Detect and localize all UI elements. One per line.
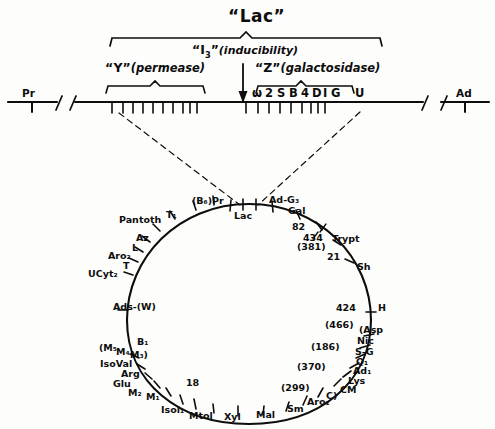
- marker-l: L: [132, 243, 138, 253]
- i-gene-symbol: “I: [192, 42, 205, 57]
- marker-21: 21: [327, 252, 340, 262]
- marker-b1: B₁: [137, 337, 148, 347]
- z-gene-label: “Z”(galactosidase): [255, 62, 380, 75]
- marker-isoval: IsoVal: [100, 359, 132, 369]
- z-marker-d: D: [312, 88, 323, 100]
- marker-82: 82: [292, 222, 305, 232]
- z-marker-omega: ω: [252, 88, 263, 100]
- marker-gal: Gal: [288, 206, 305, 216]
- marker-m2: M₂: [128, 388, 142, 398]
- marker-h: H: [378, 303, 386, 313]
- marker-186: (186): [311, 342, 340, 352]
- marker-aro2: Aro₂: [108, 251, 131, 261]
- y-gene-function: (permease): [131, 61, 205, 75]
- y-bracket: [106, 81, 205, 93]
- marker-466: (466): [325, 320, 354, 330]
- marker-pantoth: Pantoth: [119, 215, 161, 225]
- marker-18: 18: [186, 378, 199, 388]
- y-region-ticks: [112, 103, 197, 113]
- marker-m4: M₄: [116, 347, 130, 357]
- marker-ads-w: Ads-(W): [113, 302, 156, 312]
- inducibility-label: “I3”(inducibility): [192, 44, 298, 59]
- y-gene-label: “Y”(permease): [105, 62, 205, 75]
- z-marker-i: I: [323, 88, 328, 100]
- marker-trypt: Trypt: [332, 234, 360, 244]
- z-marker-4: 4: [301, 88, 310, 100]
- marker-ucyt2: UCyt₂: [88, 269, 118, 279]
- marker-t: T: [123, 261, 129, 271]
- marker-424: 424: [336, 303, 356, 313]
- marker-arg: Arg: [121, 369, 140, 379]
- lac-title: “Lac”: [228, 8, 285, 25]
- marker-b6-pr: (B₆)Pr: [192, 196, 224, 206]
- z-marker-2: 2: [265, 88, 274, 100]
- marker-az: Az: [136, 233, 149, 243]
- marker-t1: T₁: [166, 210, 177, 220]
- left-end-label: Pr: [22, 88, 35, 99]
- z-gene-function: (galactosidase): [281, 61, 381, 75]
- marker-aro1: Aro₁: [307, 397, 330, 407]
- marker-lac: Lac: [234, 211, 252, 221]
- z-marker-g: G: [331, 88, 342, 100]
- marker-asp: (Asp: [359, 325, 383, 335]
- marker-nic: Nic: [357, 336, 374, 346]
- marker-370: (370): [297, 362, 326, 372]
- marker-381: (381): [297, 242, 326, 252]
- right-end-label: Ad: [456, 88, 472, 99]
- z-gene-symbol: “Z”: [255, 60, 281, 75]
- marker-m5: (M₅: [99, 343, 117, 353]
- marker-ad-g3: Ad-G₃: [269, 195, 299, 205]
- marker-m1: M₁: [146, 392, 160, 402]
- marker-mtol: Mtol: [189, 411, 213, 421]
- marker-m3: M₃): [130, 350, 148, 360]
- i-gene-function: (inducibility): [219, 44, 298, 57]
- end-tick-marks: [32, 102, 465, 112]
- marker-mal: Mal: [256, 410, 275, 420]
- z-region-ticks: [246, 103, 325, 113]
- marker-sm: Sm: [287, 404, 304, 414]
- z-marker-u: U: [355, 88, 366, 100]
- marker-isol1: Isol₁: [161, 405, 184, 415]
- marker-xyl: Xyl: [224, 412, 241, 422]
- z-marker-s: S: [277, 88, 286, 100]
- y-gene-symbol: “Y”: [105, 60, 131, 75]
- marker-299: (299): [281, 383, 310, 393]
- genetic-map-figure: “Lac” “Y”(permease) “Z”(galactosidase) “…: [0, 0, 495, 429]
- marker-glu: Glu: [113, 379, 131, 389]
- projection-lines: [119, 112, 360, 205]
- i-gene-quote: ”: [211, 42, 219, 57]
- marker-cm: CM: [340, 385, 356, 395]
- marker-sh: Sh: [357, 262, 371, 272]
- z-marker-b: B: [289, 88, 299, 100]
